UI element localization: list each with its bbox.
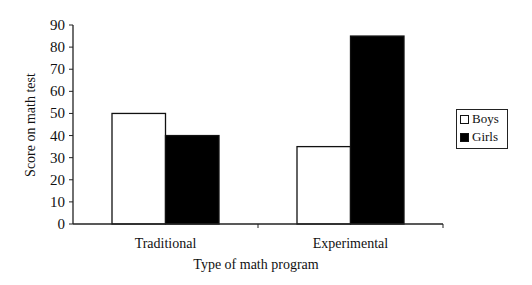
legend-label-boys: Boys — [472, 111, 499, 127]
bar-boys-traditional — [112, 113, 166, 224]
y-tick-label: 10 — [50, 194, 65, 210]
boys-swatch-icon — [460, 115, 469, 124]
y-tick-label: 0 — [58, 216, 66, 232]
x-tick-label: Traditional — [135, 236, 197, 251]
legend-item-girls: Girls — [457, 128, 507, 146]
bar-girls-experimental — [351, 36, 405, 224]
x-tick-label: Experimental — [313, 236, 389, 251]
bar-girls-traditional — [166, 136, 220, 224]
y-tick-label: 30 — [50, 150, 65, 166]
y-tick-label: 20 — [50, 172, 65, 188]
bar-boys-experimental — [297, 147, 351, 224]
girls-swatch-icon — [460, 133, 469, 142]
y-tick-label: 90 — [50, 17, 65, 33]
bar-chart: 0102030405060708090TraditionalExperiment… — [0, 0, 532, 285]
y-tick-label: 60 — [50, 83, 65, 99]
y-tick-label: 50 — [50, 105, 65, 121]
y-tick-label: 40 — [50, 128, 65, 144]
y-tick-label: 70 — [50, 61, 65, 77]
legend: Boys Girls — [456, 109, 508, 149]
legend-item-boys: Boys — [457, 110, 507, 128]
y-axis-label: Score on math test — [23, 73, 38, 177]
x-axis-label: Type of math program — [193, 257, 318, 272]
bars-group — [112, 36, 404, 224]
y-tick-label: 80 — [50, 39, 65, 55]
legend-label-girls: Girls — [472, 129, 498, 145]
